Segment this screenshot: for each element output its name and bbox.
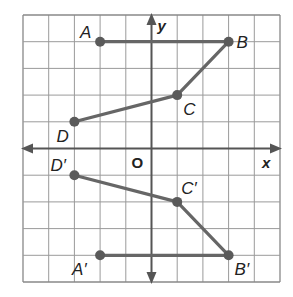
vertex-point [224,250,234,260]
vertex-point [69,117,79,127]
vertex-label: A [79,23,91,42]
vertex-label: B [237,33,248,52]
origin-label: O [132,154,144,171]
coordinate-plane-diagram: x y O ABCDA′B′C′D′ [0,0,293,297]
vertex-point [69,170,79,180]
vertex-label: C′ [181,179,197,198]
vertex-point [95,250,105,260]
vertex-label: C [183,100,196,119]
y-axis-label: y [157,17,167,34]
vertex-label: D [56,127,68,146]
axes [21,13,282,284]
x-axis-label: x [261,154,271,171]
vertex-point [224,37,234,47]
vertex-label: B′ [235,260,250,279]
vertex-label: A′ [71,260,87,279]
vertex-point [172,90,182,100]
vertex-point [172,197,182,207]
coordinate-grid: x y O ABCDA′B′C′D′ [0,0,293,297]
vertex-point [95,37,105,47]
vertex-label: D′ [50,156,66,175]
